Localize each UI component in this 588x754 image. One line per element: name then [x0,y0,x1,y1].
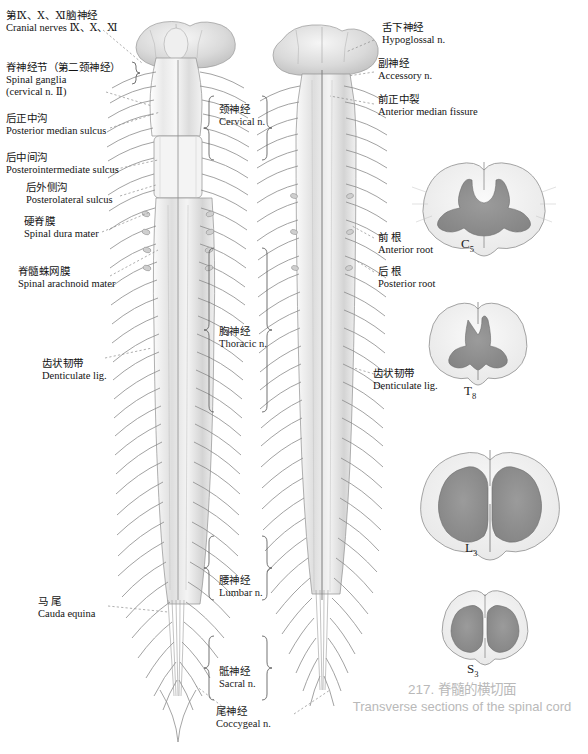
label-accessory-n-cn: 副神经 [378,58,432,70]
label-accessory-n-en: Accessory n. [378,70,432,82]
label-denticulate-lig-right-cn: 齿状韧带 [373,368,438,380]
label-cauda-equina-en: Cauda equina [38,608,95,620]
cross-section-label-c5: C5 [461,236,474,254]
cross-section-label-c5-index: 5 [470,244,474,254]
cross-section-l3 [421,450,560,560]
label-thoracic-nerves-cn: 胸神经 [219,326,267,338]
label-cauda-equina-cn: 马 尾 [38,596,95,608]
label-spinal-dura-mater-en: Spinal dura mater [24,228,99,240]
label-denticulate-lig-left-en: Denticulate lig. [42,370,107,382]
label-lumbar-nerves-cn: 腰神经 [219,575,263,587]
label-anterior-median-fissure-en: Anterior median fissure [378,106,478,118]
label-cervical-nerves-en: Cervical n. [219,116,265,128]
label-posterior-median-sulcus-cn: 后正中沟 [6,113,106,125]
figure-caption: 217. 脊髓的横切面 Transverse sections of the s… [338,682,586,715]
label-coccygeal-nerves-cn: 尾神经 [216,706,271,718]
cross-section-label-t8-index: 8 [472,391,476,401]
section-braces [132,62,272,700]
figure-caption-en: Transverse sections of the spinal cord [338,699,586,715]
cross-section-s3 [442,591,528,665]
label-spinal-ganglia-en: Spinal ganglia [6,74,120,86]
label-cranial-nerves: 第Ⅸ、Ⅹ、Ⅺ脑神经 Cranial nerves Ⅸ、Ⅹ、Ⅺ [6,10,117,34]
label-sacral-nerves-en: Sacral n. [219,678,256,690]
label-lumbar-nerves: 腰神经 Lumbar n. [219,575,263,599]
medulla-oblongata-anterior [273,25,378,76]
cross-section-label-s3-index: 3 [474,669,478,679]
label-cervical-nerves-cn: 颈神经 [219,104,265,116]
label-anterior-median-fissure: 前正中裂 Anterior median fissure [378,94,478,118]
label-accessory-n: 副神经 Accessory n. [378,58,432,82]
spinal-cord-atlas-figure: 第Ⅸ、Ⅹ、Ⅺ脑神经 Cranial nerves Ⅸ、Ⅹ、Ⅺ 脊神经节（第二颈神… [0,0,588,754]
label-spinal-dura-mater-cn: 硬脊膜 [24,216,99,228]
label-spinal-ganglia: 脊神经节（第二颈神经） Spinal ganglia (cervical n. … [6,62,120,97]
label-denticulate-lig-right-en: Denticulate lig. [373,380,438,392]
medulla-oblongata-posterior [136,22,235,69]
label-anterior-root-cn: 前 根 [378,232,433,244]
label-anterior-root-en: Anterior root [378,244,433,256]
label-denticulate-lig-left: 齿状韧带 Denticulate lig. [42,358,107,382]
label-thoracic-nerves-en: Thoracic n. [219,338,267,350]
label-spinal-arachnoid-mater-en: Spinal arachnoid mater [18,278,115,290]
label-denticulate-lig-left-cn: 齿状韧带 [42,358,107,370]
label-denticulate-lig-right: 齿状韧带 Denticulate lig. [373,368,438,392]
label-posterointermediate-sulcus-cn: 后中间沟 [6,152,119,164]
label-thoracic-nerves: 胸神经 Thoracic n. [219,326,267,350]
label-hypoglossal-n: 舌下神经 Hypoglossal n. [382,22,445,46]
spinal-nerve-roots-anterior [257,86,387,706]
label-anterior-median-fissure-cn: 前正中裂 [378,94,478,106]
label-posterior-root: 后 根 Posterior root [378,266,435,290]
label-posterointermediate-sulcus: 后中间沟 Posterointermediate sulcus [6,152,119,176]
label-coccygeal-nerves: 尾神经 Coccygeal n. [216,706,271,730]
label-cranial-nerves-en: Cranial nerves Ⅸ、Ⅹ、Ⅺ [6,22,117,34]
label-sacral-nerves-cn: 骶神经 [219,666,256,678]
label-spinal-arachnoid-mater-cn: 脊髓蛛网膜 [18,266,115,278]
label-cranial-nerves-cn: 第Ⅸ、Ⅹ、Ⅺ脑神经 [6,10,117,22]
cross-section-label-l3-index: 3 [473,548,477,558]
leader-lines [102,30,374,714]
label-posterior-root-en: Posterior root [378,278,435,290]
dorsal-root-ganglia [141,210,214,271]
cross-section-label-c5-level: C [461,236,470,251]
label-posterior-median-sulcus-en: Posterior median sulcus [6,125,106,137]
label-spinal-ganglia-en2: (cervical n. Ⅱ) [6,86,120,98]
label-lumbar-nerves-en: Lumbar n. [219,587,263,599]
cross-section-label-s3: S3 [467,661,478,679]
cross-section-c5 [412,162,556,256]
cross-section-label-t8: T8 [464,383,476,401]
label-posterolateral-sulcus: 后外侧沟 Posterolateral sulcus [26,182,113,206]
label-posterior-root-cn: 后 根 [378,266,435,278]
cross-section-t8 [429,302,527,385]
label-spinal-dura-mater: 硬脊膜 Spinal dura mater [24,216,99,240]
figure-caption-cn: 217. 脊髓的横切面 [338,682,586,699]
label-sacral-nerves: 骶神经 Sacral n. [219,666,256,690]
label-cervical-nerves: 颈神经 Cervical n. [219,104,265,128]
label-spinal-arachnoid-mater: 脊髓蛛网膜 Spinal arachnoid mater [18,266,115,290]
cauda-equina-left [168,600,184,696]
dorsal-root-ganglia-anterior [290,193,354,272]
label-hypoglossal-n-cn: 舌下神经 [382,22,445,34]
label-posterolateral-sulcus-cn: 后外侧沟 [26,182,113,194]
anterior-view-specimen [257,25,387,706]
label-hypoglossal-n-en: Hypoglossal n. [382,34,445,46]
label-cauda-equina: 马 尾 Cauda equina [38,596,95,620]
label-posterolateral-sulcus-en: Posterolateral sulcus [26,194,113,206]
cross-section-label-l3-level: L [465,540,473,555]
label-posterior-median-sulcus: 后正中沟 Posterior median sulcus [6,113,106,137]
cross-section-label-t8-level: T [464,383,472,398]
posterior-view-specimen [107,22,249,743]
label-anterior-root: 前 根 Anterior root [378,232,433,256]
label-posterointermediate-sulcus-en: Posterointermediate sulcus [6,164,119,176]
cross-section-label-l3: L3 [465,540,477,558]
label-spinal-ganglia-cn: 脊神经节（第二颈神经） [6,62,120,74]
label-coccygeal-nerves-en: Coccygeal n. [216,718,271,730]
spinal-nerve-roots-posterior [107,72,249,710]
